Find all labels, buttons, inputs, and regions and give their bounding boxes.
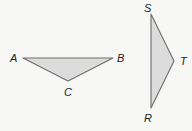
triangle-abc <box>23 58 113 81</box>
vertex-label-b: B <box>117 52 124 64</box>
vertex-label-c: C <box>64 86 72 98</box>
vertex-label-s: S <box>144 2 152 14</box>
triangle-rst <box>151 14 174 108</box>
vertex-label-r: R <box>144 112 152 124</box>
triangles-diagram: A B C S T R <box>0 0 192 131</box>
vertex-label-t: T <box>180 55 188 67</box>
vertex-label-a: A <box>9 52 17 64</box>
